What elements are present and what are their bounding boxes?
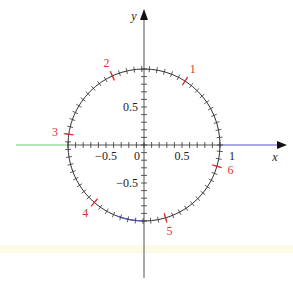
circle-tick [158, 217, 159, 223]
circle-tick [81, 98, 86, 102]
x-axis-arrow-icon [277, 141, 287, 149]
circle-tick [76, 104, 81, 107]
y-axis-label: y [130, 9, 137, 23]
circle-tick [82, 190, 87, 194]
circle-tick [217, 137, 223, 138]
radian-label-6: 6 [227, 163, 233, 177]
radian-label-5: 5 [167, 224, 173, 238]
labels: 123456−0.500.510.5−0.5xy [52, 9, 278, 238]
x-tick-label: −0.5 [95, 149, 117, 163]
circle-tick [104, 77, 107, 82]
x-tick-label: 1 [229, 149, 235, 163]
y-tick-label: −0.5 [116, 176, 138, 190]
circle-tick [150, 218, 151, 224]
x-tick-label: 0 [134, 149, 140, 163]
circle-tick [216, 158, 222, 159]
x-axis-label: x [271, 150, 278, 164]
axes [16, 9, 287, 278]
circle-tick [184, 206, 187, 211]
radian-label-2: 2 [104, 56, 110, 70]
radian-mark-3 [64, 134, 74, 135]
y-tick-label: 0.5 [123, 100, 138, 114]
circle-tick [135, 218, 136, 224]
circle-tick [204, 100, 209, 103]
y-axis-arrow-icon [140, 9, 148, 20]
circle-tick [99, 205, 102, 210]
radian-mark-2 [110, 71, 114, 80]
circle-tick [98, 81, 102, 86]
circle-tick [205, 185, 210, 188]
circle-tick [77, 184, 82, 187]
highlight-arc [118, 216, 144, 221]
unit-circle-diagram: 123456−0.500.510.5−0.5xy [0, 0, 293, 290]
radian-mark-1 [182, 77, 187, 85]
radian-label-1: 1 [190, 62, 196, 76]
radian-label-4: 4 [82, 206, 88, 220]
pale-band [0, 245, 293, 253]
radian-label-3: 3 [52, 125, 58, 139]
circle-tick [156, 67, 157, 73]
circle-tick [66, 157, 72, 158]
circle-tick [134, 67, 135, 73]
x-tick-label: 0.5 [175, 149, 190, 163]
